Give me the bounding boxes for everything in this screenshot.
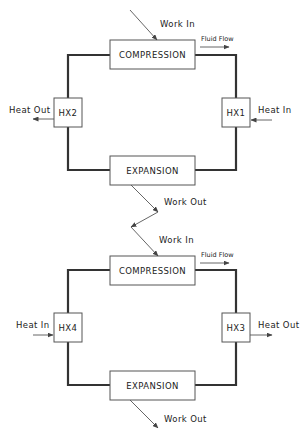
- upper-work-out-label: Work Out: [164, 197, 207, 207]
- hx1-label: HX1: [227, 108, 246, 118]
- lower-work-out-arrow: [130, 400, 158, 428]
- upper-work-in-arrow: [130, 10, 157, 40]
- work-transfer-return-arrow: [131, 212, 158, 227]
- cycle-diagram: COMPRESSION EXPANSION HX2 HX1 Work In Fl…: [0, 0, 306, 435]
- upper-right-heat-label: Heat In: [258, 105, 292, 115]
- upper-compression-label: COMPRESSION: [119, 50, 186, 60]
- upper-work-out-arrow: [131, 185, 158, 212]
- upper-expansion-box: EXPANSION: [110, 156, 195, 185]
- lower-left-heat-label: Heat In: [16, 320, 50, 330]
- upper-work-in-label: Work In: [160, 19, 195, 29]
- lower-compression-label: COMPRESSION: [119, 266, 186, 276]
- hx4-label: HX4: [59, 323, 78, 333]
- upper-loop-piping: [68, 55, 236, 170]
- lower-cycle: COMPRESSION EXPANSION HX4 HX3 Work In Fl…: [16, 227, 300, 428]
- hx1-box: HX1: [222, 98, 250, 127]
- hx3-label: HX3: [227, 323, 246, 333]
- lower-work-out-label: Work Out: [164, 414, 207, 424]
- lower-expansion-box: EXPANSION: [110, 371, 195, 400]
- lower-fluid-flow-label: Fluid Flow: [201, 251, 234, 259]
- upper-expansion-label: EXPANSION: [126, 166, 179, 176]
- lower-loop-piping: [68, 270, 236, 385]
- upper-compression-box: COMPRESSION: [110, 40, 195, 69]
- upper-left-heat-label: Heat Out: [9, 105, 51, 115]
- lower-expansion-label: EXPANSION: [126, 381, 179, 391]
- lower-work-in-label: Work In: [159, 235, 194, 245]
- lower-compression-box: COMPRESSION: [110, 256, 195, 285]
- lower-right-heat-label: Heat Out: [258, 320, 300, 330]
- lower-work-in-arrow: [131, 227, 158, 256]
- upper-cycle: COMPRESSION EXPANSION HX2 HX1 Work In Fl…: [9, 10, 292, 212]
- hx4-box: HX4: [54, 313, 82, 342]
- hx2-label: HX2: [59, 108, 78, 118]
- upper-fluid-flow-label: Fluid Flow: [201, 35, 234, 43]
- hx3-box: HX3: [222, 313, 250, 342]
- hx2-box: HX2: [54, 98, 82, 127]
